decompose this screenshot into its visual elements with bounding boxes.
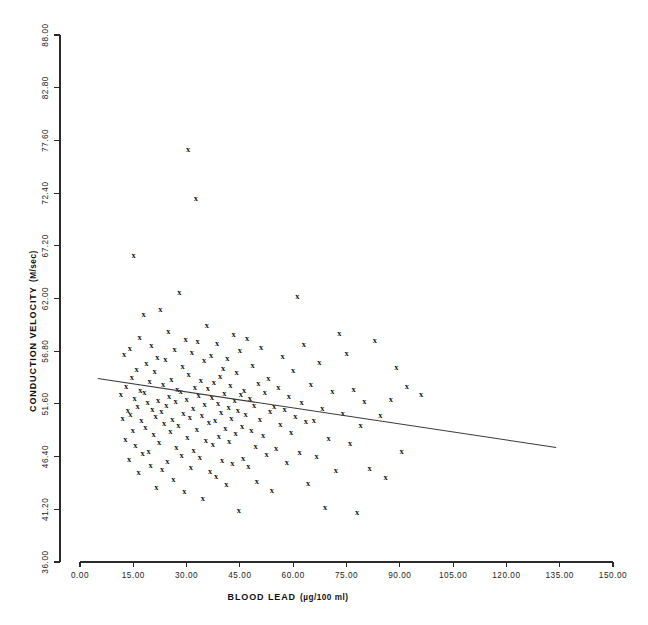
y-tick-label: 77.60 bbox=[41, 129, 50, 152]
data-point-marker: x bbox=[161, 379, 166, 389]
data-point-marker: x bbox=[225, 353, 230, 363]
data-point-marker: x bbox=[405, 381, 410, 391]
data-point-marker: x bbox=[170, 414, 175, 424]
x-tick-label: 75.00 bbox=[335, 571, 358, 580]
data-point-marker: x bbox=[243, 409, 248, 419]
data-point-marker: x bbox=[143, 422, 148, 432]
data-point-marker: x bbox=[373, 335, 378, 345]
data-point-marker: x bbox=[234, 428, 239, 438]
data-point-marker: x bbox=[200, 410, 205, 420]
y-tick-label: 51.60 bbox=[41, 392, 50, 415]
data-point-marker: x bbox=[237, 505, 242, 515]
data-point-marker: x bbox=[213, 415, 218, 425]
x-tick-label: 30.00 bbox=[175, 571, 198, 580]
x-tick-label: 0.00 bbox=[71, 571, 89, 580]
data-point-marker: x bbox=[383, 472, 388, 482]
data-point-marker: x bbox=[220, 455, 225, 465]
data-point-marker: x bbox=[177, 287, 182, 297]
data-point-marker: x bbox=[181, 408, 186, 418]
data-point-marker: x bbox=[133, 440, 138, 450]
y-tick-label: 67.20 bbox=[41, 234, 50, 257]
data-point-marker: x bbox=[119, 389, 124, 399]
data-point-marker: x bbox=[195, 336, 200, 346]
data-point-marker: x bbox=[202, 355, 207, 365]
plot-canvas: 36.0041.2046.4051.6056.8062.0067.2072.40… bbox=[0, 0, 648, 625]
data-point-marker: x bbox=[172, 344, 177, 354]
data-point-marker: x bbox=[151, 429, 156, 439]
data-point-marker: x bbox=[261, 430, 266, 440]
data-point-marker: x bbox=[184, 394, 189, 404]
data-point-marker: x bbox=[167, 391, 172, 401]
data-point-marker: x bbox=[246, 461, 251, 471]
data-point-marker: x bbox=[215, 338, 220, 348]
data-point-marker: x bbox=[121, 413, 126, 423]
data-point-marker: x bbox=[128, 343, 133, 353]
data-point-marker: x bbox=[156, 395, 161, 405]
x-tick-label: 120.00 bbox=[492, 571, 520, 580]
data-point-marker: x bbox=[182, 486, 187, 496]
data-point-marker: x bbox=[323, 502, 328, 512]
data-point-marker: x bbox=[337, 328, 342, 338]
data-point-marker: x bbox=[264, 449, 269, 459]
data-point-marker: x bbox=[203, 399, 208, 409]
data-point-marker: x bbox=[209, 350, 214, 360]
data-point-marker: x bbox=[249, 425, 254, 435]
x-tick-label: 60.00 bbox=[282, 571, 305, 580]
data-point-marker: x bbox=[141, 309, 146, 319]
data-point-marker: x bbox=[295, 291, 300, 301]
data-point-marker: x bbox=[378, 410, 383, 420]
data-point-marker: x bbox=[300, 397, 305, 407]
data-point-marker: x bbox=[306, 478, 311, 488]
data-point-marker: x bbox=[297, 447, 302, 457]
data-point-marker: x bbox=[341, 408, 346, 418]
data-point-marker: x bbox=[127, 454, 132, 464]
data-point-marker: x bbox=[219, 407, 224, 417]
data-point-marker: x bbox=[235, 367, 240, 377]
data-point-marker: x bbox=[266, 373, 271, 383]
y-tick-label: 41.20 bbox=[41, 498, 50, 521]
data-point-marker: x bbox=[228, 380, 233, 390]
data-point-marker: x bbox=[138, 332, 143, 342]
data-point-marker: x bbox=[195, 424, 200, 434]
data-point-marker: x bbox=[245, 333, 250, 343]
data-point-marker: x bbox=[293, 411, 298, 421]
data-point-marker: x bbox=[174, 442, 179, 452]
data-point-marker: x bbox=[183, 334, 188, 344]
data-point-marker: x bbox=[315, 451, 320, 461]
data-point-marker: x bbox=[204, 435, 209, 445]
data-point-marker: x bbox=[327, 433, 332, 443]
data-point-marker: x bbox=[176, 420, 181, 430]
data-point-marker: x bbox=[155, 352, 160, 362]
data-point-marker: x bbox=[123, 434, 128, 444]
data-point-marker: x bbox=[158, 304, 163, 314]
data-point-marker: x bbox=[230, 458, 235, 468]
data-point-marker: x bbox=[144, 358, 149, 368]
data-point-marker: x bbox=[146, 446, 151, 456]
data-point-marker: x bbox=[201, 493, 206, 503]
data-point-marker: x bbox=[270, 485, 275, 495]
data-point-marker: x bbox=[134, 364, 139, 374]
data-point-marker: x bbox=[280, 351, 285, 361]
data-point-marker: x bbox=[191, 403, 196, 413]
y-tick-label: 72.40 bbox=[41, 181, 50, 204]
data-point-marker: x bbox=[389, 394, 394, 404]
data-point-marker: x bbox=[283, 404, 288, 414]
data-point-marker: x bbox=[231, 329, 236, 339]
data-point-marker: x bbox=[259, 342, 264, 352]
data-point-marker: x bbox=[189, 462, 194, 472]
data-point-marker: x bbox=[256, 378, 261, 388]
y-tick-label: 88.00 bbox=[41, 23, 50, 46]
data-point-marker: x bbox=[258, 414, 263, 424]
data-point-marker: x bbox=[302, 339, 307, 349]
data-point-marker: x bbox=[367, 463, 372, 473]
data-point-marker: x bbox=[210, 392, 215, 402]
y-tick-label: 82.80 bbox=[41, 76, 50, 99]
data-point-marker: x bbox=[166, 326, 171, 336]
data-point-marker: x bbox=[263, 387, 268, 397]
data-point-marker: x bbox=[208, 466, 213, 476]
data-point-marker: x bbox=[253, 441, 258, 451]
data-point-marker: x bbox=[157, 437, 162, 447]
data-point-marker: x bbox=[255, 476, 260, 486]
data-point-marker: x bbox=[171, 474, 176, 484]
data-point-marker: x bbox=[251, 360, 256, 370]
